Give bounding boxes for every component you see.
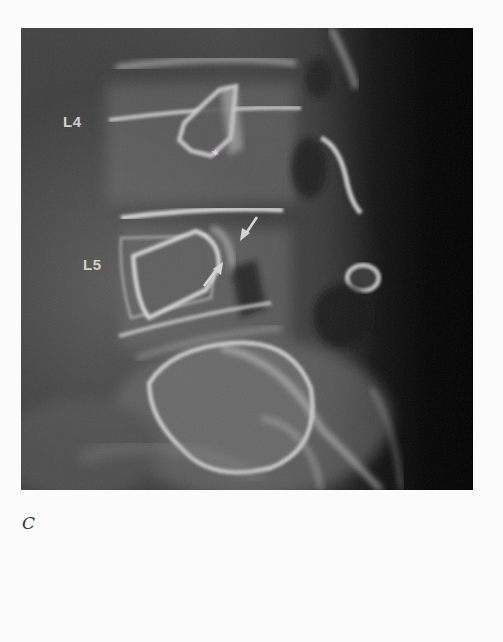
label-l4: L4 [63,114,82,129]
figure: L4 * L5 C [0,0,503,642]
label-l5: L5 [83,257,102,272]
radiograph-image: L4 * L5 [21,28,473,490]
asterisk-marker: * [212,148,219,161]
panel-letter: C [22,515,35,532]
